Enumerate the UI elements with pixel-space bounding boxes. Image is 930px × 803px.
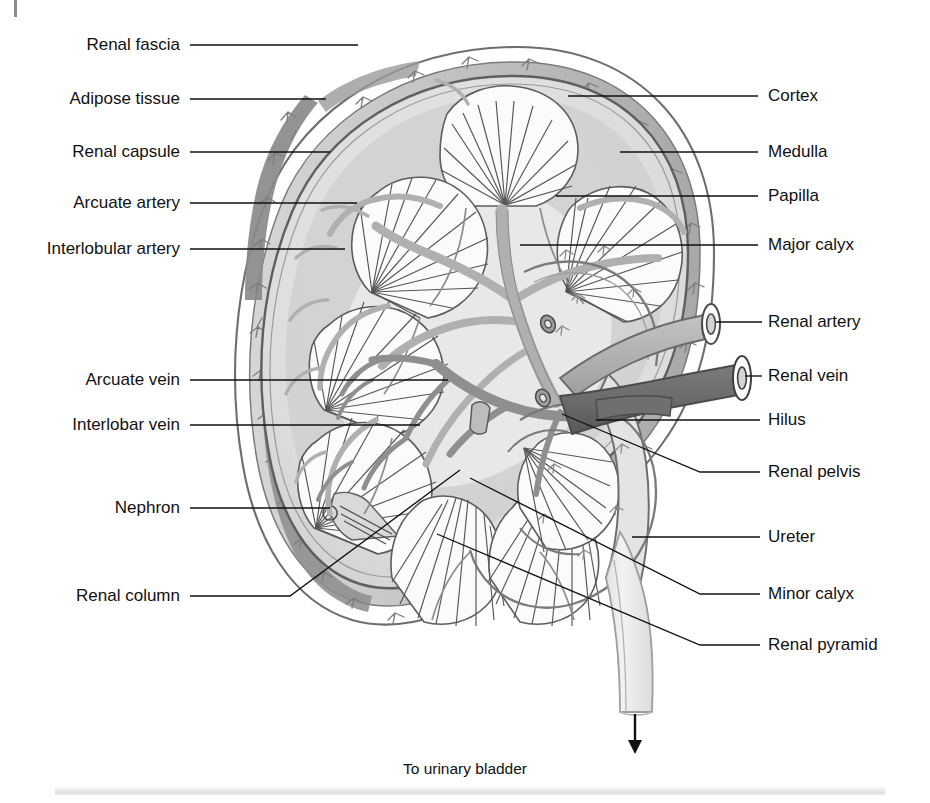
label-interlobular-artery: Interlobular artery	[0, 240, 180, 257]
label-adipose-tissue: Adipose tissue	[0, 90, 180, 107]
page-footer-cutoff-text	[55, 786, 885, 796]
down-arrow-icon	[628, 714, 642, 754]
label-renal-pelvis: Renal pelvis	[768, 463, 861, 480]
label-arcuate-artery: Arcuate artery	[0, 194, 180, 211]
label-renal-column: Renal column	[0, 587, 180, 604]
label-hilus: Hilus	[768, 411, 806, 428]
label-major-calyx: Major calyx	[768, 236, 854, 253]
label-renal-fascia: Renal fascia	[0, 36, 180, 53]
label-ureter: Ureter	[768, 528, 815, 545]
figure-canvas: To urinary bladder Renal fasciaAdipose t…	[0, 0, 930, 803]
label-renal-vein: Renal vein	[768, 367, 848, 384]
label-arcuate-vein: Arcuate vein	[0, 371, 180, 388]
label-renal-artery: Renal artery	[768, 313, 861, 330]
label-renal-pyramid: Renal pyramid	[768, 636, 878, 653]
label-medulla: Medulla	[768, 143, 828, 160]
label-interlobar-vein: Interlobar vein	[0, 416, 180, 433]
to-urinary-bladder-caption: To urinary bladder	[0, 760, 930, 778]
kidney-cross-section-illustration	[0, 0, 930, 803]
label-cortex: Cortex	[768, 87, 818, 104]
renal-pyramid-top-center	[440, 86, 578, 206]
label-nephron: Nephron	[0, 499, 180, 516]
label-minor-calyx: Minor calyx	[768, 585, 854, 602]
label-renal-capsule: Renal capsule	[0, 143, 180, 160]
label-papilla: Papilla	[768, 187, 819, 204]
